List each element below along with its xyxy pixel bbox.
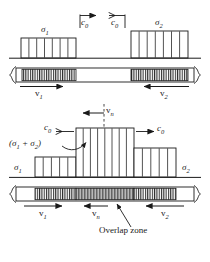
label-c0-mid-right: c0 — [157, 124, 164, 135]
callout-leader-overlap-zone — [117, 204, 131, 227]
pulse-block-sigma1-top — [21, 38, 76, 58]
label-sigma1-top: σ1 — [41, 25, 49, 36]
rod-top — [10, 67, 201, 84]
rod-bottom — [10, 186, 201, 203]
label-v1-bottom: v1 — [39, 209, 47, 220]
label-c0-mid-left: c0 — [44, 123, 51, 134]
label-v2-top: v2 — [160, 89, 168, 100]
label-sigma2-top: σ2 — [155, 18, 163, 29]
label-sigma2-bottom: σ2 — [182, 163, 190, 174]
pulse-block-sigma2-top — [131, 31, 188, 58]
figure-wave-overlap-diagram: σ1 σ2 c0 c0 v1 v2 vn c0 c0 (σ1 + σ2) σ1 … — [0, 0, 210, 262]
label-vn-mid: vn — [106, 106, 114, 117]
label-sigma-sum: (σ1 + σ2) — [9, 139, 41, 150]
label-v1-top: v1 — [35, 89, 43, 100]
label-sigma1-bottom: σ1 — [14, 163, 22, 174]
label-overlap-zone: Overlap zone — [99, 226, 147, 235]
superposition-profile — [35, 128, 176, 177]
label-vn-bottom: vn — [92, 209, 100, 220]
label-v2-bottom: v2 — [161, 209, 169, 220]
label-c0-top-left: c0 — [81, 18, 88, 29]
figure-drawing — [0, 0, 210, 262]
label-c0-top-right: c0 — [111, 18, 118, 29]
